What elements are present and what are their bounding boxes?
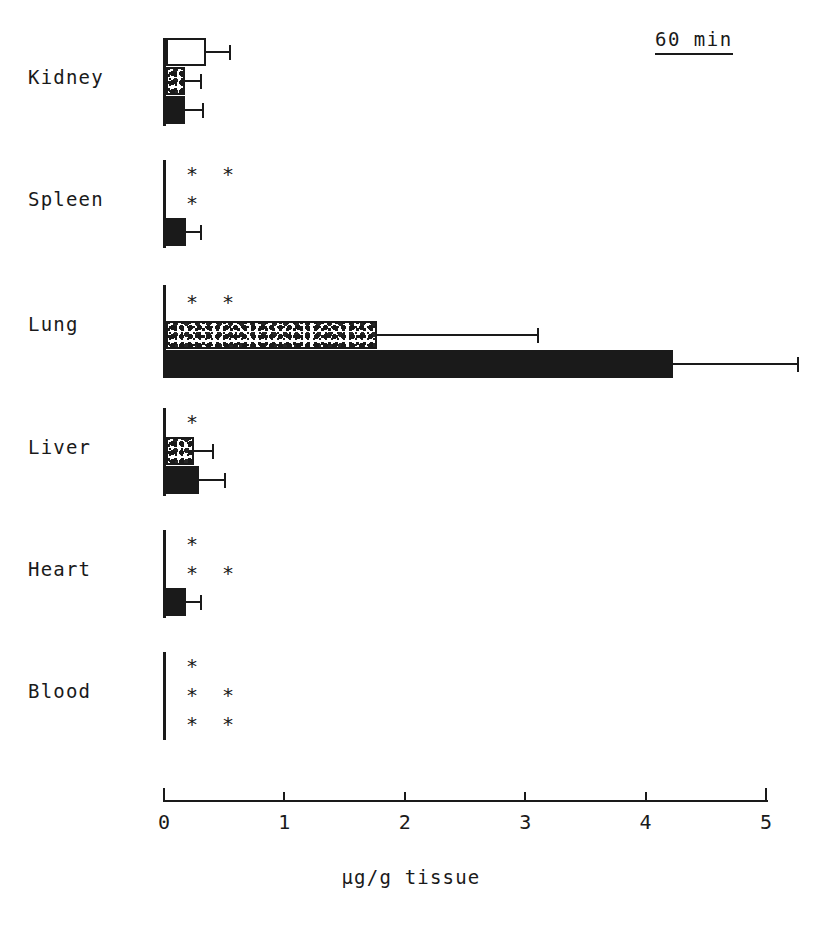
bar-row: * *: [166, 710, 167, 738]
bar-row: [166, 96, 185, 124]
bar-row: *: [166, 530, 167, 558]
x-tick-4: [645, 792, 647, 801]
error-bar-cap: [229, 45, 231, 60]
error-bar: [185, 109, 202, 111]
category-label-liver: Liver: [28, 436, 148, 458]
significance-marker: *: [186, 408, 204, 436]
bar-row: [166, 437, 194, 465]
error-bar-cap: [224, 473, 226, 488]
error-bar-cap: [202, 103, 204, 118]
category-label-heart: Heart: [28, 558, 148, 580]
category-label-blood: Blood: [28, 680, 148, 702]
significance-marker: *: [186, 189, 204, 217]
bar-row: * *: [166, 160, 167, 188]
bar-liver-stippled: [166, 437, 194, 465]
bar-row: *: [166, 189, 167, 217]
category-label-kidney: Kidney: [28, 66, 148, 88]
x-tick-1: [283, 792, 285, 801]
x-tick-label-0: 0: [144, 810, 184, 834]
significance-marker: * *: [186, 559, 240, 587]
error-bar: [186, 601, 199, 603]
error-bar-cap: [200, 74, 202, 89]
category-label-lung: Lung: [28, 313, 148, 335]
x-tick-0: [163, 788, 165, 801]
bar-spleen-solid: [166, 218, 186, 246]
bar-kidney-open: [166, 38, 206, 66]
significance-marker: *: [186, 652, 204, 680]
bar-lung-stippled: [166, 321, 377, 349]
bar-row: *: [166, 652, 167, 680]
bar-row: *: [166, 408, 167, 436]
bar-row: * *: [166, 681, 167, 709]
x-tick-3: [524, 792, 526, 801]
bar-row: [166, 38, 206, 66]
bar-lung-solid: [166, 350, 673, 378]
bar-row: [166, 466, 199, 494]
error-bar: [186, 231, 199, 233]
x-tick-label-3: 3: [505, 810, 545, 834]
error-bar-cap: [537, 328, 539, 343]
significance-marker: *: [186, 530, 204, 558]
significance-marker: * *: [186, 710, 240, 738]
chart-figure: 60 min KidneySpleen* **Lung* *Liver*Hear…: [0, 0, 822, 932]
error-bar-cap: [212, 444, 214, 459]
error-bar: [206, 51, 229, 53]
error-bar: [377, 334, 537, 336]
significance-marker: * *: [186, 681, 240, 709]
significance-marker: * *: [186, 288, 240, 316]
error-bar: [194, 450, 212, 452]
bar-row: [166, 67, 185, 95]
x-tick-2: [404, 792, 406, 801]
plot-area: KidneySpleen* **Lung* *Liver*Heart** *Bl…: [0, 0, 822, 932]
bar-row: [166, 588, 186, 616]
bar-row: [166, 218, 186, 246]
error-bar-cap: [200, 225, 202, 240]
bar-row: [166, 321, 377, 349]
significance-marker: * *: [186, 160, 240, 188]
category-label-spleen: Spleen: [28, 188, 148, 210]
x-tick-label-1: 1: [264, 810, 304, 834]
error-bar-cap: [797, 357, 799, 372]
bar-kidney-solid: [166, 96, 185, 124]
x-tick-label-4: 4: [626, 810, 666, 834]
x-tick-5: [765, 788, 767, 801]
x-axis-line: [163, 800, 768, 802]
error-bar: [199, 479, 224, 481]
x-tick-label-5: 5: [746, 810, 786, 834]
bar-row: [166, 350, 673, 378]
bar-row: * *: [166, 559, 167, 587]
bar-heart-solid: [166, 588, 186, 616]
bar-row: * *: [166, 288, 167, 316]
error-bar: [185, 80, 199, 82]
bar-kidney-stippled: [166, 67, 185, 95]
x-axis-title: µg/g tissue: [0, 866, 822, 888]
error-bar-cap: [200, 595, 202, 610]
bar-liver-solid: [166, 466, 199, 494]
x-tick-label-2: 2: [385, 810, 425, 834]
error-bar: [673, 363, 797, 365]
